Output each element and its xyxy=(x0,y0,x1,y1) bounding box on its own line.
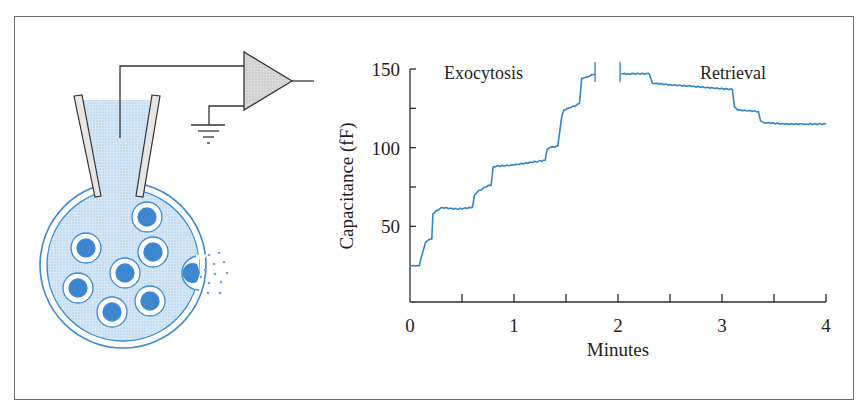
x-tick-label: 1 xyxy=(509,315,519,336)
chart-axes xyxy=(410,69,826,302)
trace-exocytosis xyxy=(410,74,595,266)
y-axis-label: Capacitance (fF) xyxy=(336,122,358,249)
vesicle-icon xyxy=(97,297,127,327)
vesicle-icon xyxy=(138,237,168,267)
vesicle-icon xyxy=(132,202,162,232)
tick-labels: 5010015001234 xyxy=(372,59,832,336)
x-tick-label: 2 xyxy=(613,315,623,336)
x-axis-label: Minutes xyxy=(587,339,649,360)
x-tick-label: 3 xyxy=(717,315,727,336)
figure-canvas: 5010015001234 Minutes Capacitance (fF) E… xyxy=(0,0,866,412)
x-tick-label: 0 xyxy=(405,315,415,336)
capacitance-trace xyxy=(410,62,826,266)
x-tick-label: 4 xyxy=(821,315,831,336)
vesicle-icon xyxy=(63,273,93,303)
y-tick-label: 100 xyxy=(372,138,401,159)
amplifier-icon xyxy=(244,52,292,110)
vesicle-icon xyxy=(110,258,140,288)
cell-diagram xyxy=(40,52,314,348)
y-tick-label: 150 xyxy=(372,59,401,80)
vesicle-icon xyxy=(135,286,165,316)
ground-icon xyxy=(191,106,244,143)
annotation-retrieval: Retrieval xyxy=(700,63,766,83)
annotation-exocytosis: Exocytosis xyxy=(444,63,523,83)
y-tick-label: 50 xyxy=(381,216,400,237)
capacitance-chart: 5010015001234 Minutes Capacitance (fF) E… xyxy=(336,59,831,360)
vesicle-icon xyxy=(71,233,101,263)
